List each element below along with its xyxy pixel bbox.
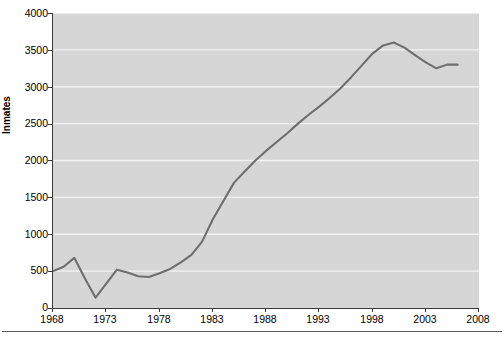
y-tick-label: 1000 xyxy=(6,229,48,240)
y-tick-label: 1500 xyxy=(6,192,48,203)
y-tick-label: 0 xyxy=(6,302,48,313)
x-tick-label: 1978 xyxy=(137,313,181,325)
gridlines xyxy=(53,13,479,271)
x-tick-mark xyxy=(478,308,479,312)
x-tick-mark xyxy=(265,308,266,312)
y-tick-label: 3000 xyxy=(6,82,48,93)
x-tick-mark xyxy=(372,308,373,312)
x-tick-label: 2008 xyxy=(456,313,500,325)
y-axis-ticks: 4000 3500 3000 2500 2000 1500 1000 500 0 xyxy=(0,0,48,338)
x-tick-label: 1988 xyxy=(243,313,287,325)
y-tick-label: 2500 xyxy=(6,118,48,129)
x-tick-mark xyxy=(159,308,160,312)
footer-divider xyxy=(2,331,502,332)
x-tick-mark xyxy=(425,308,426,312)
x-tick-label: 2003 xyxy=(403,313,447,325)
plot-area xyxy=(52,13,479,308)
x-tick-mark xyxy=(212,308,213,312)
x-tick-label: 1968 xyxy=(30,313,74,325)
x-tick-mark xyxy=(52,308,53,312)
y-tick-label: 4000 xyxy=(6,8,48,19)
y-tick-label: 2000 xyxy=(6,155,48,166)
x-tick-mark xyxy=(318,308,319,312)
x-tick-label: 1993 xyxy=(296,313,340,325)
x-tick-label: 1998 xyxy=(350,313,394,325)
x-tick-mark xyxy=(105,308,106,312)
x-tick-label: 1973 xyxy=(83,313,127,325)
y-tick-label: 3500 xyxy=(6,45,48,56)
y-tick-label: 500 xyxy=(6,265,48,276)
chart-canvas xyxy=(53,13,479,308)
chart-figure: Inmates 4000 3500 3000 2500 2000 1500 10… xyxy=(0,0,504,338)
x-tick-label: 1983 xyxy=(190,313,234,325)
data-line-inmates xyxy=(53,43,458,298)
